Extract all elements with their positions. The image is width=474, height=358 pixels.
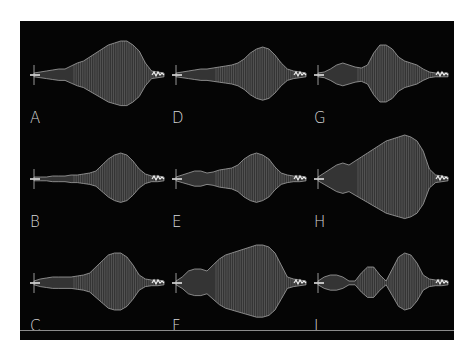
panel-label: F (172, 319, 181, 334)
waveform-panel-e: E (170, 131, 314, 237)
waveform-trace (28, 27, 168, 127)
waveform-trace (170, 235, 310, 335)
panel-label: G (314, 111, 326, 126)
panel-label: A (30, 111, 40, 126)
waveform-trace (28, 235, 168, 335)
panel-label: C (30, 319, 40, 334)
waveform-panel-b: B (28, 131, 172, 237)
panel-label: I (314, 319, 318, 334)
waveform-trace (170, 27, 310, 127)
panel-label: E (172, 215, 181, 230)
waveform-panel-f: F (170, 235, 314, 340)
panel-label: D (172, 111, 184, 126)
waveform-panel-g: G (312, 27, 454, 133)
waveform-panel-a: A (28, 27, 172, 133)
waveform-figure: A D G B E H C (20, 21, 454, 340)
waveform-panel-i: I (312, 235, 454, 340)
baseline-rule (20, 330, 454, 331)
waveform-trace (312, 131, 452, 231)
panel-label: B (30, 215, 40, 230)
waveform-panel-d: D (170, 27, 314, 133)
waveform-trace (312, 235, 452, 335)
panel-label: H (314, 215, 325, 230)
waveform-trace (170, 131, 310, 231)
waveform-trace (312, 27, 452, 127)
waveform-panel-h: H (312, 131, 454, 237)
waveform-panel-c: C (28, 235, 172, 340)
waveform-trace (28, 131, 168, 231)
